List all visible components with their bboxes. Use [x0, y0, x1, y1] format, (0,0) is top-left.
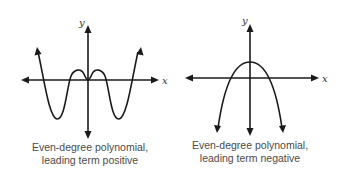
left-curve-arrow-left-icon — [35, 47, 42, 56]
left-caption-line1: Even-degree polynomial, — [32, 141, 148, 153]
right-diagram: x y Even-degree polynomial, leading term… — [185, 15, 328, 164]
left-curve-arrow-right-icon — [137, 47, 144, 56]
right-y-axis-arrow-down-icon — [247, 128, 254, 136]
left-diagram: x y Even-degree polynomial, leading term… — [21, 17, 168, 166]
right-y-axis-label: y — [241, 15, 248, 26]
right-x-axis-arrow-right-icon — [311, 75, 319, 82]
left-y-axis-arrow-up-icon — [85, 25, 92, 33]
right-x-axis-label: x — [322, 73, 328, 84]
right-curve-arrow-right-icon — [279, 125, 286, 133]
left-x-axis-label: x — [162, 75, 168, 86]
right-caption-line1: Even-degree polynomial, — [192, 139, 308, 151]
left-caption-line2: leading term positive — [42, 154, 138, 166]
left-y-axis-arrow-down-icon — [85, 131, 92, 139]
left-y-axis-label: y — [78, 17, 85, 28]
right-caption-line2: leading term negative — [200, 152, 301, 164]
right-curve-arrow-left-icon — [214, 125, 221, 133]
left-x-axis-arrow-left-icon — [21, 77, 29, 84]
right-x-axis-arrow-left-icon — [185, 75, 193, 82]
left-x-axis-arrow-right-icon — [151, 77, 159, 84]
polynomial-diagrams: x y Even-degree polynomial, leading term… — [0, 0, 344, 177]
